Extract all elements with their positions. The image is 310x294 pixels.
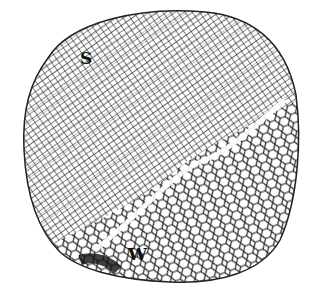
tissue-section-image	[0, 0, 310, 294]
region-label-w: W	[128, 244, 147, 264]
region-label-s: S	[80, 48, 92, 68]
micrograph-figure: S W	[0, 0, 310, 294]
